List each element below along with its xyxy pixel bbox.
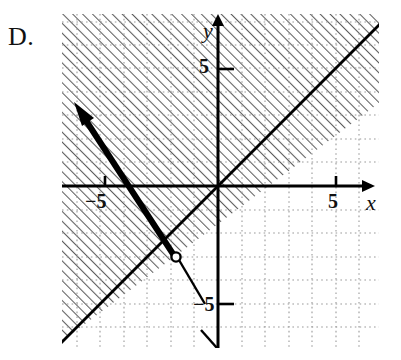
shaded-solution-region <box>62 14 379 348</box>
x-tick-label-5: 5 <box>328 190 338 213</box>
x-axis-label: x <box>366 190 376 216</box>
lower-tick-segment <box>201 330 217 348</box>
graph-figure: D. <box>0 0 401 360</box>
coordinate-plane <box>62 14 379 348</box>
y-tick-label-minus-5: −5 <box>193 293 214 316</box>
y-axis-label: y <box>203 18 213 44</box>
coordinate-plane-svg <box>62 14 379 348</box>
choice-letter-label: D. <box>8 22 34 52</box>
y-tick-label-5: 5 <box>199 55 209 78</box>
x-tick-label-minus-5: −5 <box>85 190 106 213</box>
